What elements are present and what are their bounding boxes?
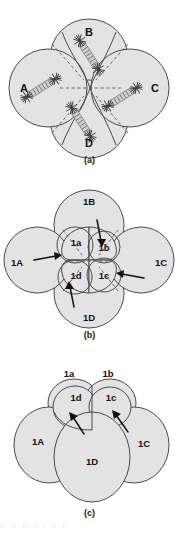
panel-b: 1B 1A 1C 1D 1a 1b 1c 1d [0, 175, 179, 350]
cell-label-1c: 1c [106, 392, 117, 403]
spiral-cleavage-figure: A B C D (a) [0, 0, 179, 534]
cell-label-1C: 1C [138, 438, 150, 449]
cell-label-1D: 1D [86, 456, 98, 467]
cell-label-1d: 1d [70, 392, 81, 403]
cell-label-1B: 1B [83, 196, 95, 207]
cell-label-1c: 1c [99, 270, 110, 281]
panel-a: A B C D [0, 0, 179, 175]
cell-label-1A: 1A [11, 257, 23, 268]
cell-label-1D: 1D [83, 312, 95, 323]
cropped-caption-fragment: II. II. II. I. I. II. I. [0, 523, 179, 529]
cell-label-1d: 1d [70, 270, 81, 281]
panel-c: 1a 1b 1d 1c 1A 1C 1D [0, 350, 179, 534]
panel-c-caption: (c) [0, 508, 179, 518]
panel-b-caption: (b) [0, 330, 179, 340]
cell-label-D: D [85, 137, 93, 149]
cell-label-1b: 1b [102, 368, 113, 379]
cell-label-1a: 1a [64, 368, 75, 379]
cell-label-C: C [151, 82, 159, 94]
panel-a-caption: (a) [0, 155, 179, 165]
cell-label-1a: 1a [71, 237, 82, 248]
cell-label-A: A [20, 82, 28, 94]
cell-label-1A: 1A [32, 436, 44, 447]
cell-label-B: B [85, 26, 93, 38]
cell-label-1C: 1C [155, 257, 167, 268]
cell-label-1b: 1b [98, 242, 109, 253]
